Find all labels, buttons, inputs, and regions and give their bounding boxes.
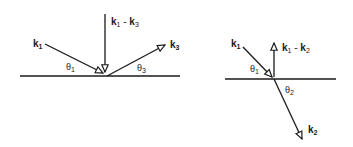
label-theta2: θ2: [285, 85, 294, 96]
label-theta3: θ3: [137, 63, 146, 74]
refraction-diagram: k1 k1 - k2 k2 θ1 θ2: [225, 38, 336, 139]
reflection-diagram: k1 k1 - k3 k3 θ1 θ3: [20, 14, 180, 76]
diagram-canvas: k1 k1 - k3 k3 θ1 θ3 k1 k1 - k2 k2 θ1 θ2: [0, 0, 353, 147]
k3-reflected-arrow: [107, 45, 165, 76]
label-theta1: θ1: [250, 64, 259, 75]
label-k1: k1: [33, 38, 43, 50]
label-k1: k1: [231, 38, 241, 50]
label-k2: k2: [308, 124, 318, 136]
label-k1-minus-k3: k1 - k3: [111, 16, 139, 28]
label-k1-minus-k2: k1 - k2: [282, 42, 310, 54]
label-theta1: θ1: [66, 62, 75, 73]
label-k3: k3: [170, 39, 180, 51]
